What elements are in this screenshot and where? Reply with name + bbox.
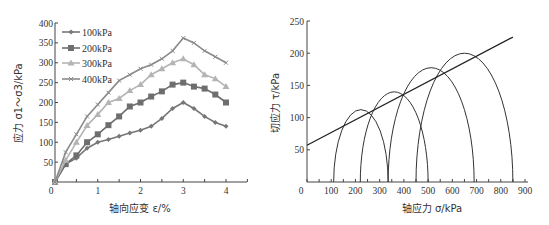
series-line — [55, 38, 226, 182]
square-marker — [95, 131, 101, 137]
x-tick-label: 900 — [518, 186, 533, 196]
legend-item: 400kPa — [62, 74, 113, 85]
diamond-marker — [138, 128, 143, 133]
mohr-circle — [388, 68, 474, 182]
legend-label: 300kPa — [82, 58, 113, 69]
series-100kPa — [53, 100, 229, 185]
x-tick-label: 0 — [49, 186, 54, 196]
square-marker — [212, 92, 218, 98]
square-marker — [127, 103, 133, 109]
legend-label: 400kPa — [82, 74, 113, 85]
square-marker — [191, 84, 197, 90]
square-marker — [138, 100, 144, 106]
y-tick-label: 400 — [39, 19, 54, 29]
y-tick-label: 200 — [290, 49, 305, 59]
y-tick-label: 250 — [290, 17, 305, 27]
y-tick-label: 50 — [44, 158, 54, 168]
y-axis-title: 应力 σ1～σ3/kPa — [12, 63, 24, 142]
triangle-marker — [180, 55, 187, 61]
y-tick-label: 150 — [39, 118, 54, 128]
x-axis-title: 轴应力 σ/kPa — [402, 202, 462, 214]
diamond-marker — [106, 137, 111, 142]
y-axis-title: 切应力 τ/kPa — [269, 73, 281, 133]
square-marker — [73, 152, 79, 158]
square-marker — [170, 82, 176, 88]
legend-item: 100kPa — [62, 27, 113, 38]
square-marker — [223, 100, 229, 106]
x-tick-label: 1 — [95, 186, 100, 196]
x-tick-label: 0 — [299, 186, 304, 196]
square-marker — [116, 113, 122, 119]
chart-canvas: 5010015020025030035040001234轴向应变 ε/%应力 σ… — [0, 0, 549, 225]
stress-strain-chart: 5010015020025030035040001234轴向应变 ε/%应力 σ… — [12, 19, 247, 215]
y-tick-label: 100 — [39, 138, 54, 148]
x-tick-label: 500 — [421, 186, 436, 196]
x-tick-label: 4 — [224, 186, 229, 196]
series-line — [55, 103, 226, 183]
legend: 100kPa200kPa300kPa400kPa — [62, 27, 113, 85]
mohr-circle — [416, 53, 513, 182]
series-line — [55, 59, 226, 182]
legend-label: 100kPa — [82, 27, 113, 38]
x-tick-label: 800 — [494, 186, 509, 196]
x-tick-label: 200 — [348, 186, 363, 196]
x-tick-label: 100 — [324, 186, 339, 196]
x-tick-label: 300 — [373, 186, 388, 196]
y-tick-label: 250 — [39, 78, 54, 88]
y-tick-label: 300 — [39, 58, 54, 68]
legend-item: 300kPa — [62, 58, 113, 69]
series-400kPa — [53, 36, 228, 184]
cross-marker — [96, 102, 100, 106]
y-tick-label: 200 — [39, 98, 54, 108]
cross-marker — [106, 91, 110, 95]
legend-item: 200kPa — [62, 43, 113, 54]
square-marker — [68, 45, 74, 51]
diamond-marker — [69, 30, 74, 35]
square-marker — [159, 88, 165, 94]
failure-envelope — [307, 37, 513, 145]
y-tick-label: 100 — [290, 113, 305, 123]
mohr-circle — [360, 92, 428, 182]
diamond-marker — [127, 131, 132, 136]
diamond-marker — [117, 134, 122, 139]
y-tick-label: 50 — [295, 145, 305, 155]
x-tick-label: 2 — [138, 186, 143, 196]
series-300kPa — [52, 55, 230, 184]
cross-marker — [171, 49, 175, 53]
square-marker — [202, 86, 208, 92]
mohr-circle-chart: 5010015020025001002003004005006007008009… — [269, 17, 532, 215]
diamond-marker — [224, 124, 229, 129]
square-marker — [84, 139, 90, 145]
square-marker — [180, 80, 186, 86]
x-axis-title: 轴向应变 ε/% — [109, 202, 170, 214]
legend-label: 200kPa — [82, 43, 113, 54]
x-tick-label: 600 — [445, 186, 460, 196]
x-tick-label: 400 — [397, 186, 412, 196]
x-tick-label: 3 — [181, 186, 186, 196]
y-tick-label: 350 — [39, 38, 54, 48]
square-marker — [105, 122, 111, 128]
square-marker — [148, 94, 154, 100]
y-tick-label: 150 — [290, 81, 305, 91]
x-tick-label: 700 — [469, 186, 484, 196]
